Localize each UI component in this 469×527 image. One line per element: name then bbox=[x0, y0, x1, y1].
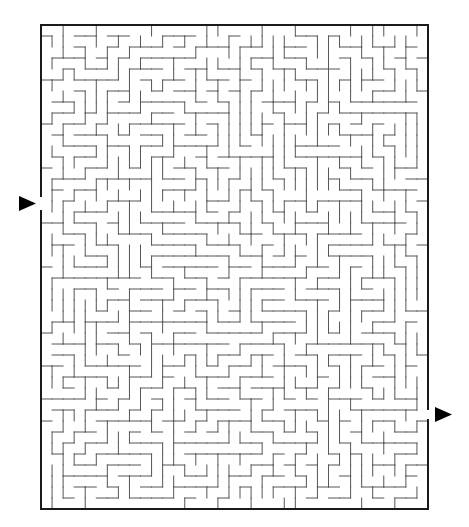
maze bbox=[0, 0, 469, 527]
exit-arrow-icon bbox=[435, 407, 452, 422]
entrance-arrow-icon bbox=[19, 196, 36, 211]
maze-walls bbox=[41, 25, 428, 509]
